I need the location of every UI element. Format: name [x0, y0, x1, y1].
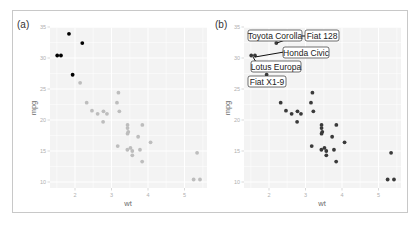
label-toyota-corolla: Toyota Corolla [248, 30, 303, 41]
data-point [130, 149, 134, 153]
label-fiat-128: Fiat 128 [305, 30, 339, 41]
label-text: Toyota Corolla [248, 31, 303, 41]
x-tick-label: 2 [267, 192, 270, 198]
data-point [140, 123, 144, 127]
label-fiat-x1-9: Fiat X1-9 [248, 76, 286, 87]
data-point [55, 54, 59, 58]
figure: (a) 101520253035 2345 wt mpg (b) 1015202… [0, 0, 419, 227]
data-point [198, 178, 202, 182]
data-point [126, 123, 130, 127]
data-point [334, 123, 338, 127]
panel-b: (b) 101520253035 2345 wt mpg Toyota Coro… [215, 19, 401, 208]
y-tick-label: 15 [40, 148, 46, 154]
y-tick-label: 10 [40, 179, 46, 185]
data-point [195, 151, 199, 155]
x-tick-label: 3 [304, 192, 307, 198]
panel-b-y-axis-title: mpg [223, 101, 232, 116]
x-tick-label: 5 [377, 192, 380, 198]
data-point [309, 101, 313, 105]
label-text: Lotus Europa [251, 62, 302, 72]
panel-a-plot-area [50, 27, 207, 188]
data-point [101, 120, 105, 124]
y-tick-label: 20 [40, 117, 46, 123]
x-tick-label: 4 [146, 192, 149, 198]
data-point [295, 120, 299, 124]
data-point [80, 41, 84, 45]
data-point [343, 140, 347, 144]
data-point [140, 160, 144, 164]
data-point [311, 91, 315, 95]
data-point [320, 123, 324, 127]
data-point [71, 73, 75, 77]
data-point [85, 101, 89, 105]
data-point [105, 112, 109, 116]
x-tick-label: 4 [340, 192, 343, 198]
data-point [67, 32, 71, 36]
data-point [149, 140, 153, 144]
label-honda-civic: Honda Civic [283, 47, 330, 58]
data-point [324, 149, 328, 153]
data-point [78, 81, 82, 85]
x-tick-label: 2 [73, 192, 76, 198]
y-tick-label: 30 [40, 55, 46, 61]
data-point [136, 135, 140, 139]
panel-b-y-ticks: 101520253035 [234, 24, 244, 185]
panel-b-x-ticks: 2345 [267, 188, 380, 198]
data-point [389, 151, 393, 155]
y-tick-label: 15 [234, 148, 240, 154]
data-point [334, 160, 338, 164]
panel-b-x-axis-title: wt [317, 199, 326, 208]
data-point [330, 135, 334, 139]
y-tick-label: 30 [234, 55, 240, 61]
data-point [116, 144, 120, 148]
y-tick-label: 35 [234, 24, 240, 30]
data-point [59, 54, 63, 58]
panel-a-tag: (a) [17, 19, 29, 30]
panel-a-x-ticks: 2345 [73, 188, 186, 198]
x-tick-label: 3 [110, 192, 113, 198]
label-text: Fiat 128 [307, 31, 338, 41]
data-point [324, 153, 328, 157]
data-point [290, 112, 294, 116]
data-point [130, 153, 134, 157]
data-point [117, 91, 121, 95]
y-tick-label: 25 [234, 86, 240, 92]
y-tick-label: 25 [40, 86, 46, 92]
label-lotus-europa: Lotus Europa [251, 61, 302, 72]
data-point [332, 148, 336, 152]
data-point [117, 109, 121, 113]
data-point [386, 178, 390, 182]
panel-a-x-axis-title: wt [123, 199, 132, 208]
data-point [279, 101, 283, 105]
panel-a: (a) 101520253035 2345 wt mpg [17, 19, 207, 208]
data-point [90, 109, 94, 113]
panel-a-y-ticks: 101520253035 [40, 24, 50, 185]
data-point [96, 112, 100, 116]
data-point [138, 148, 142, 152]
data-point [310, 144, 314, 148]
y-tick-label: 20 [234, 117, 240, 123]
data-point [392, 178, 396, 182]
panel-a-background [50, 28, 207, 189]
x-tick-label: 5 [183, 192, 186, 198]
panel-b-tag: (b) [215, 19, 227, 30]
label-text: Fiat X1-9 [250, 77, 285, 87]
data-point [311, 109, 315, 113]
data-point [320, 132, 324, 136]
panel-a-y-axis-title: mpg [29, 101, 38, 116]
data-point [102, 109, 106, 113]
data-point [319, 148, 323, 152]
data-point [126, 132, 130, 136]
y-tick-label: 10 [234, 179, 240, 185]
data-point [284, 109, 288, 113]
data-point [125, 148, 129, 152]
y-tick-label: 35 [40, 24, 46, 30]
data-point [249, 54, 253, 58]
data-point [115, 101, 119, 105]
data-point [299, 112, 303, 116]
data-point [192, 178, 196, 182]
label-text: Honda Civic [283, 48, 330, 58]
data-point [296, 109, 300, 113]
